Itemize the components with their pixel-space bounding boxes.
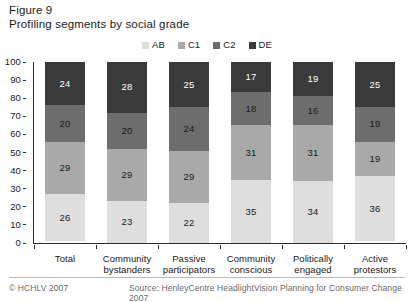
bar-column: 19163134 — [282, 62, 344, 243]
chart-legend: ABC1C2DE — [0, 40, 414, 50]
bar-value-label: 19 — [370, 154, 381, 164]
legend-label: C1 — [188, 40, 200, 50]
bar-column: 25242922 — [158, 62, 220, 243]
x-axis-category: Passiveparticipators — [158, 250, 220, 275]
bar-segment-ab: 23 — [107, 201, 147, 243]
bar-column: 17183135 — [220, 62, 282, 243]
y-tick-label: 0 — [16, 238, 21, 248]
bar-value-label: 28 — [122, 82, 133, 92]
bar-value-label: 36 — [370, 204, 381, 214]
y-tick-mark — [23, 224, 26, 225]
bar-stack: 17183135 — [231, 62, 271, 243]
bar-value-label: 24 — [184, 124, 195, 134]
bar-segment-ab: 22 — [169, 203, 209, 243]
x-axis-category-label: Total — [34, 254, 96, 265]
footer-divider — [9, 277, 405, 278]
y-tick: 50 — [10, 148, 26, 158]
y-tick-label: 40 — [10, 166, 21, 176]
bar-value-label: 31 — [308, 148, 319, 158]
x-axis-category-label: Politically — [282, 254, 344, 265]
bar-value-label: 20 — [60, 119, 71, 129]
y-tick-label: 20 — [10, 202, 21, 212]
bar-segment-c1: 31 — [231, 125, 271, 181]
bar-value-label: 23 — [122, 217, 133, 227]
x-axis-category-label: protestors — [344, 265, 406, 276]
bar-value-label: 24 — [60, 79, 71, 89]
x-axis-category-label: conscious — [220, 265, 282, 276]
x-axis-category-label: Active — [344, 254, 406, 265]
x-axis-category-label: bystanders — [96, 265, 158, 276]
figure-number: Figure 9 — [9, 3, 405, 17]
figure-container: Figure 9 Profiling segments by social gr… — [0, 0, 414, 302]
legend-swatch-icon — [178, 42, 185, 49]
bar-value-label: 31 — [246, 148, 257, 158]
bar-value-label: 29 — [122, 170, 133, 180]
bar-column: 28202923 — [96, 62, 158, 243]
bar-segment-c1: 31 — [293, 125, 333, 181]
bar-value-label: 29 — [60, 163, 71, 173]
x-tick-mark — [406, 245, 407, 249]
bar-value-label: 26 — [60, 213, 71, 223]
y-tick: 80 — [10, 93, 26, 103]
bar-segment-c1: 29 — [45, 142, 85, 194]
bar-value-label: 18 — [246, 104, 257, 114]
bar-segment-c2: 24 — [169, 107, 209, 150]
bar-segment-de: 17 — [231, 62, 271, 92]
y-tick-mark — [23, 206, 26, 207]
y-tick: 40 — [10, 166, 26, 176]
bar-segment-c1: 29 — [107, 149, 147, 201]
x-axis-category-label: Community — [220, 254, 282, 265]
bar-segment-de: 25 — [169, 62, 209, 107]
bar-segment-c2: 20 — [107, 113, 147, 149]
y-tick: 90 — [10, 75, 26, 85]
legend-item-c1: C1 — [178, 40, 200, 50]
bar-segment-de: 28 — [107, 62, 147, 113]
title-block: Figure 9 Profiling segments by social gr… — [9, 3, 405, 32]
y-tick-mark — [23, 116, 26, 117]
legend-label: AB — [152, 40, 165, 50]
legend-label: C2 — [223, 40, 235, 50]
y-tick: 0 — [16, 238, 26, 248]
bar-segment-ab: 34 — [293, 181, 333, 243]
bar-segment-c1: 19 — [355, 142, 395, 176]
x-tick-mark — [158, 245, 159, 249]
bar-segment-ab: 36 — [355, 176, 395, 241]
y-tick-label: 60 — [10, 129, 21, 139]
legend-swatch-icon — [142, 42, 149, 49]
bar-stack: 28202923 — [107, 62, 147, 243]
footer: © HCHLV 2007 Source: HenleyCentre Headli… — [9, 283, 405, 302]
y-tick-label: 80 — [10, 93, 21, 103]
x-axis-category: Politicallyengaged — [282, 250, 344, 275]
x-axis: TotalCommunitybystandersPassiveparticipa… — [34, 250, 406, 275]
bar-value-label: 20 — [122, 126, 133, 136]
bar-value-label: 34 — [308, 207, 319, 217]
bar-segment-c1: 29 — [169, 151, 209, 203]
bar-segment-c2: 16 — [293, 96, 333, 125]
bar-group: 2420292628202923252429221718313519163134… — [34, 62, 406, 243]
x-axis-category-label: participators — [158, 265, 220, 276]
bar-segment-de: 19 — [293, 62, 333, 96]
y-tick: 100 — [5, 57, 26, 67]
y-tick-label: 30 — [10, 184, 21, 194]
bar-value-label: 25 — [370, 80, 381, 90]
bar-stack: 19163134 — [293, 62, 333, 243]
bar-stack: 25191936 — [355, 62, 395, 243]
y-tick: 30 — [10, 184, 26, 194]
y-tick: 10 — [10, 220, 26, 230]
x-axis-category-label: Community — [96, 254, 158, 265]
bar-segment-c2: 18 — [231, 92, 271, 124]
x-tick-mark — [282, 245, 283, 249]
bar-value-label: 25 — [184, 80, 195, 90]
bar-stack: 24202926 — [45, 62, 85, 243]
x-axis-category: Communityconscious — [220, 250, 282, 275]
y-tick-label: 90 — [10, 75, 21, 85]
legend-swatch-icon — [213, 42, 220, 49]
y-tick: 60 — [10, 129, 26, 139]
bar-value-label: 17 — [246, 72, 257, 82]
y-tick: 70 — [10, 111, 26, 121]
plot-area: 1009080706050403020100 24202926282029232… — [0, 55, 414, 250]
bar-segment-de: 24 — [45, 62, 85, 105]
figure-title: Profiling segments by social grade — [9, 17, 405, 32]
y-tick-label: 50 — [10, 148, 21, 158]
bar-segment-c2: 19 — [355, 107, 395, 141]
